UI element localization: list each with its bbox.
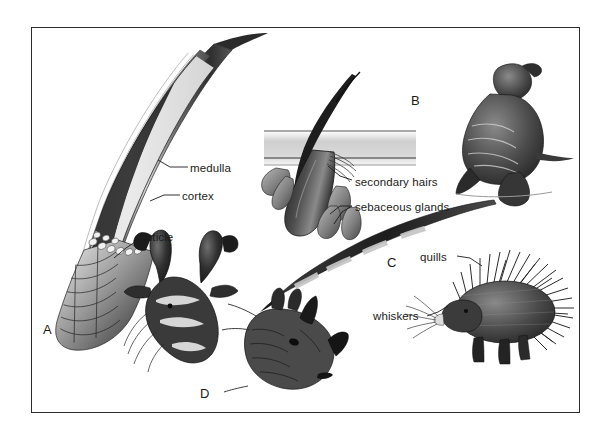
label-medulla: medulla [190,162,231,174]
panel-letter-d: D [200,386,209,401]
panel-letter-a: A [43,322,52,337]
plate-frame [31,27,580,413]
label-cuticle: cuticle [140,231,173,243]
label-secondary-hairs: secondary hairs [355,176,438,188]
label-whiskers: whiskers [373,310,419,322]
panel-letter-b: B [411,93,420,108]
label-quills: quills [420,251,447,263]
label-cortex: cortex [182,190,214,202]
panel-letter-c: C [387,255,396,270]
figure-root: medulla cortex cuticle secondary hairs s… [0,0,614,440]
label-sebaceous-glands: sebaceous glands [355,201,449,213]
